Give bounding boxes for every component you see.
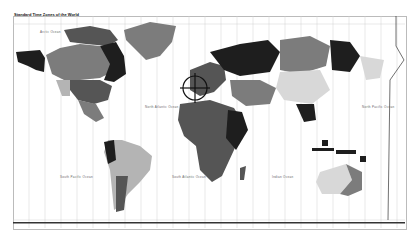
australia — [316, 164, 362, 196]
international-date-line — [388, 16, 404, 220]
greenland — [124, 22, 176, 60]
time-zone-bar — [13, 222, 405, 224]
world-map — [0, 0, 419, 242]
north-america — [16, 26, 126, 122]
ocean-label: Indian Ocean — [272, 175, 293, 179]
south-america — [104, 140, 152, 212]
africa — [178, 100, 248, 182]
ocean-label: North Pacific Ocean — [362, 105, 394, 109]
ocean-label: South Pacific Ocean — [60, 175, 93, 179]
ocean-label: North Atlantic Ocean — [145, 105, 179, 109]
southeast-asia-islands — [312, 140, 366, 162]
ocean-label: South Atlantic Ocean — [172, 175, 206, 179]
ocean-label: Arctic Ocean — [40, 30, 61, 34]
